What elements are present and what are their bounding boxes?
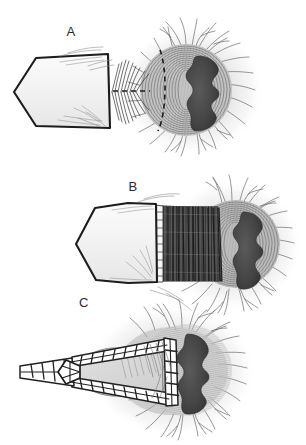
panel-b-wedge-instrument (76, 203, 157, 283)
panel-b-striated-barrel (155, 204, 224, 284)
panel-a-label: A (66, 24, 75, 39)
illustration-canvas: A (0, 0, 306, 445)
figure-root: A (0, 0, 306, 445)
panel-a: A (14, 18, 264, 156)
panel-c-label: C (79, 295, 89, 310)
panel-a-wedge-instrument (14, 54, 110, 128)
panel-c: C (20, 295, 256, 440)
panel-a-concentric-rings (140, 44, 232, 136)
panel-b: B (76, 175, 302, 315)
panel-b-label: B (128, 179, 137, 194)
